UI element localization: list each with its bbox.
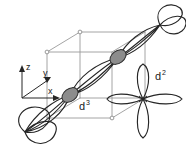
- axis-label-z: z: [26, 62, 31, 72]
- d2-label-base: d: [155, 70, 161, 82]
- cube-vertex-marker: [78, 30, 82, 34]
- d3-label-superscript: 3: [86, 99, 90, 106]
- orbital-overlap-figure: z y x d 3 d 2: [0, 0, 186, 147]
- axis-label-y: y: [43, 68, 48, 78]
- cube-vertex-marker: [110, 116, 114, 120]
- cube-vertex-marker: [45, 50, 49, 54]
- d2-label-superscript: 2: [162, 69, 166, 76]
- axis-label-x: x: [48, 86, 53, 96]
- d3-label-base: d: [79, 100, 85, 112]
